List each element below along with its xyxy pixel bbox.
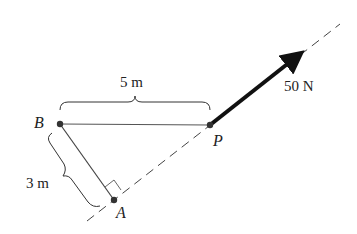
- label-a: A: [115, 204, 126, 221]
- segment-ba: [60, 124, 114, 200]
- label-p: P: [212, 132, 223, 149]
- label-force: 50 N: [284, 78, 314, 94]
- segment-bp: [60, 124, 210, 125]
- label-b: B: [34, 114, 44, 131]
- point-a-dot: [111, 197, 117, 203]
- force-moment-diagram: B P A 5 m 3 m 50 N: [0, 0, 357, 234]
- label-3m: 3 m: [26, 175, 49, 191]
- label-5m: 5 m: [120, 74, 143, 90]
- right-angle-marker: [105, 180, 121, 190]
- point-p-dot: [207, 122, 213, 128]
- point-b-dot: [57, 121, 63, 127]
- brace-5m: [60, 96, 210, 110]
